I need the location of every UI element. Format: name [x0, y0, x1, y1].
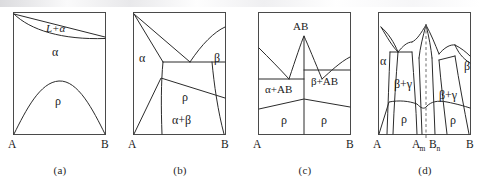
figure-root: L+α α ρ A B (a) α β ρ α+β: [0, 0, 480, 184]
panel-d-center-right-edge: [432, 58, 435, 134]
panel-c-region-compound-ab-label: AB: [293, 20, 308, 32]
panel-d-axis-inner-left-label: A m: [412, 138, 426, 153]
panel-d-region-rho-right-label: ρ: [450, 113, 456, 127]
panel-b-region-alpha-label: α: [139, 51, 146, 65]
panel-c-liquidus-left: [259, 48, 289, 79]
panel-d-left-field-right-edge: [412, 52, 417, 134]
panel-a-caption: (a): [0, 164, 120, 176]
panel-a-axis-left-label: A: [8, 138, 17, 150]
panel-b: α β ρ α+β A B (b): [120, 0, 240, 184]
panel-d-region-alpha-label: α: [380, 54, 387, 68]
panel-b-axis-right-label: B: [221, 138, 229, 150]
panel-d-diagram: α β β+γ β+γ ρ ρ A A m B n B: [365, 0, 480, 160]
panel-c-liquidus-ab-peak: [289, 36, 322, 79]
panel-b-region-alpha-plus-beta-label: α+β: [172, 113, 191, 127]
panel-d-region-beta-label: β: [464, 59, 470, 73]
panel-d-region-rho-left-label: ρ: [401, 112, 407, 126]
panel-a-region-liquid-plus-alpha-label: L+α: [45, 22, 66, 34]
panel-b-alpha-solvus: [161, 62, 163, 134]
panel-c-caption: (c): [245, 164, 365, 176]
panel-c-region-beta-plus-ab-label: β+AB: [311, 75, 338, 87]
panel-a-diagram: L+α α ρ A B: [0, 0, 120, 160]
panel-d-region-beta-plus-gamma-left-label: β+γ: [394, 77, 413, 91]
panel-c-axis-right-label: B: [346, 138, 354, 150]
panel-d-axis-inner-left-subscript: m: [420, 144, 426, 153]
panel-d-alpha-solvus: [387, 52, 390, 134]
panel-d-region-beta-plus-gamma-right-label: β+γ: [439, 88, 458, 102]
panel-d-rho-boundary: [379, 101, 470, 134]
panel-b-region-rho-label: ρ: [182, 90, 188, 104]
panel-b-caption: (b): [120, 164, 240, 176]
panel-d-right-trough: [439, 45, 455, 54]
panel-d-eutectic-right: [439, 56, 455, 60]
panel-a-region-alpha-label: α: [52, 45, 59, 59]
panel-b-region-beta-label: β: [214, 51, 220, 65]
panel-d-caption: (d): [365, 164, 480, 176]
panel-d-trough-left: [398, 42, 412, 52]
panel-d-center-left-edge: [419, 58, 422, 134]
panel-d: α β β+γ β+γ ρ ρ A A m B n B (d): [365, 0, 480, 184]
panel-d-peak-fall-right: [426, 25, 439, 54]
panel-a: L+α α ρ A B (a): [0, 0, 120, 184]
panel-d-liquidus-alpha-inner: [381, 27, 398, 52]
panel-b-beta-solvus: [212, 62, 224, 134]
panel-c-region-rho-left-label: ρ: [281, 113, 287, 127]
panel-d-left-field-left-edge: [393, 52, 398, 134]
panel-c-axis-left-label: A: [253, 138, 262, 150]
panel-d-axis-inner-right-subscript: n: [437, 144, 441, 153]
panel-b-diagram: α β ρ α+β A B: [120, 0, 240, 160]
panel-c-region-rho-right-label: ρ: [321, 113, 327, 127]
panel-d-axis-inner-right-label: B n: [429, 138, 441, 153]
panel-c: AB α+AB β+AB ρ ρ A B (c): [245, 0, 365, 184]
panel-c-region-alpha-plus-ab-label: α+AB: [265, 83, 292, 95]
panel-b-axis-left-label: A: [128, 138, 137, 150]
panel-d-axis-left-label: A: [373, 138, 382, 150]
panel-d-axis-right-label: B: [466, 138, 474, 150]
panel-a-region-rho-label: ρ: [55, 94, 61, 108]
panel-a-axis-right-label: B: [101, 138, 109, 150]
panel-c-diagram: AB α+AB β+AB ρ ρ A B: [245, 0, 365, 160]
